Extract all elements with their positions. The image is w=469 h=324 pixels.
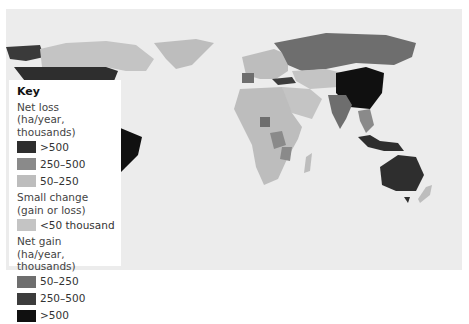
key-item: >500 [17, 139, 121, 155]
swatch [17, 293, 36, 305]
swatch [17, 175, 36, 187]
key-group-net-loss: Net loss (ha/year, thousands) >500 250–5… [17, 101, 121, 190]
alaska [6, 45, 44, 61]
canada [40, 41, 154, 71]
key-group-unit: (gain or loss) [17, 204, 121, 217]
tasmania [404, 197, 410, 203]
key-group-net-gain: Net gain (ha/year, thousands) 50–250 250… [17, 235, 121, 324]
key-title: Key [17, 86, 121, 99]
nigeria [260, 117, 270, 127]
tanzania-zambia [280, 147, 292, 161]
key-group-unit: (ha/year, thousands) [17, 248, 121, 273]
key-item: 50–250 [17, 274, 121, 290]
madagascar [304, 153, 312, 173]
key-item: 50–250 [17, 173, 121, 189]
central-asia [292, 69, 342, 89]
india [328, 95, 352, 129]
swatch [17, 219, 36, 231]
key-item: 250–500 [17, 156, 121, 172]
map-key: Key Net loss (ha/year, thousands) >500 2… [9, 80, 121, 266]
key-group-small-change: Small change (gain or loss) <50 thousand [17, 191, 121, 233]
key-group-label: Net loss [17, 101, 121, 114]
key-item-label: 250–500 [40, 292, 85, 305]
key-group-label: Net gain [17, 235, 121, 248]
new-zealand [418, 185, 432, 203]
key-item: 250–500 [17, 291, 121, 307]
southeast-asia [358, 109, 374, 133]
greenland [154, 39, 214, 69]
key-item-label: 250–500 [40, 158, 85, 171]
key-item: <50 thousand [17, 217, 121, 233]
russia [274, 33, 416, 71]
swatch [17, 310, 36, 322]
key-item-label: <50 thousand [40, 219, 115, 232]
key-item: >500 [17, 308, 121, 324]
key-group-unit: (ha/year, thousands) [17, 113, 121, 138]
swatch [17, 141, 36, 153]
spain [242, 73, 254, 83]
key-item-label: 50–250 [40, 275, 79, 288]
key-item-label: >500 [40, 141, 69, 154]
australia [380, 155, 424, 191]
indonesia [358, 135, 404, 151]
key-group-label: Small change [17, 191, 121, 204]
swatch [17, 158, 36, 170]
key-item-label: 50–250 [40, 175, 79, 188]
key-item-label: >500 [40, 309, 69, 322]
swatch [17, 276, 36, 288]
